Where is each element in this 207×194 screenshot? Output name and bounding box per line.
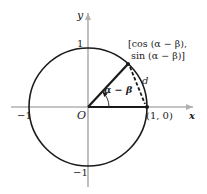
point-1-0 bbox=[145, 105, 149, 109]
tick-y-neg: −1 bbox=[73, 167, 88, 178]
x-axis-label: x bbox=[188, 110, 196, 121]
angle-point-label-line2: sin (α − β)] bbox=[131, 50, 185, 61]
diagram-canvas: y x O 1 −1 −1 (1, 0) [cos (α − β), sin (… bbox=[0, 0, 207, 194]
angle-label: α − β bbox=[104, 84, 133, 95]
origin-label: O bbox=[77, 109, 86, 122]
chord-label: d bbox=[142, 75, 148, 86]
tick-x-neg: −1 bbox=[17, 110, 32, 121]
point-angle bbox=[126, 62, 130, 66]
tick-y-pos: 1 bbox=[77, 38, 83, 49]
unit-circle-diagram: y x O 1 −1 −1 (1, 0) [cos (α − β), sin (… bbox=[0, 0, 207, 194]
point-1-0-label: (1, 0) bbox=[146, 110, 173, 121]
y-axis-label: y bbox=[76, 9, 84, 22]
angle-point-label-line1: [cos (α − β), bbox=[128, 38, 187, 49]
